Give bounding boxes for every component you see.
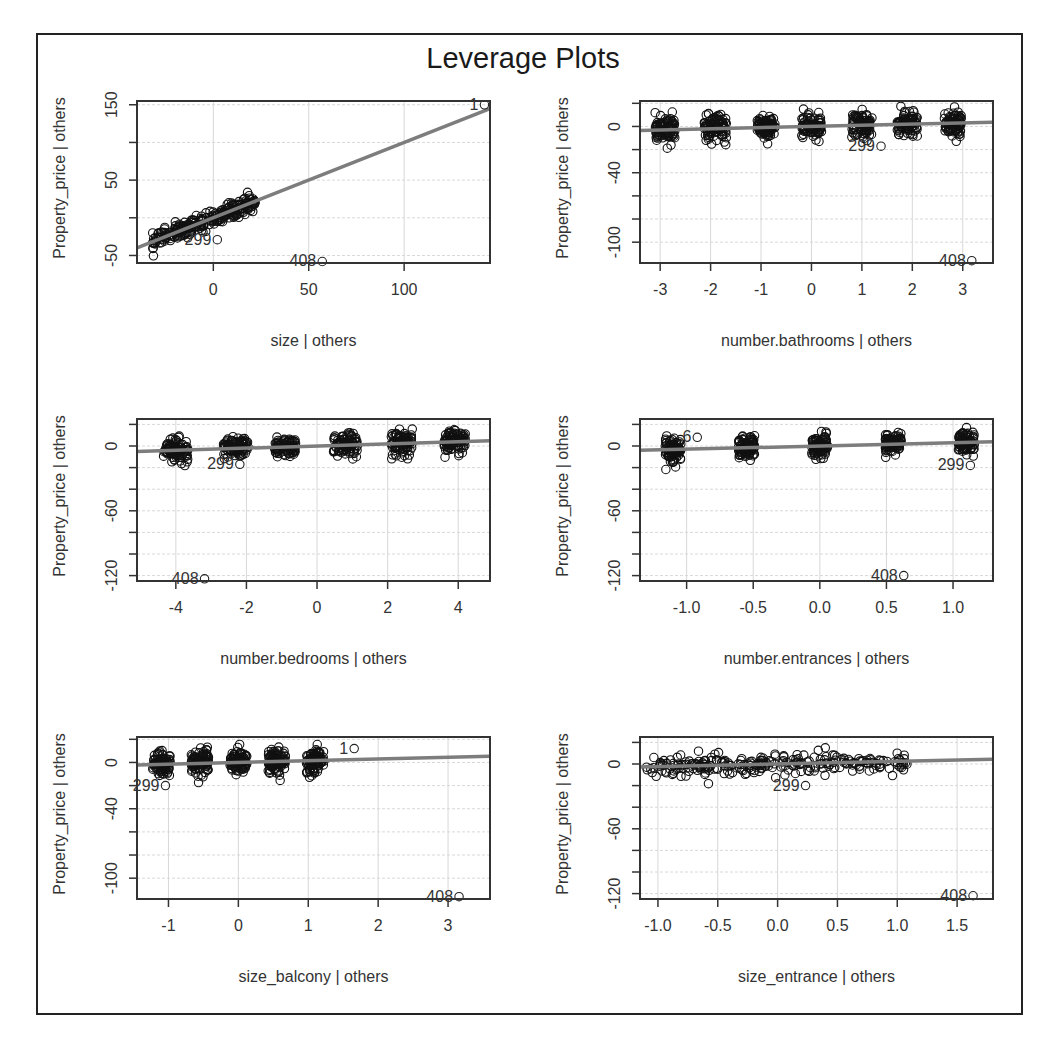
y-axis-label: Property_price | others	[554, 415, 572, 577]
svg-text:0.5: 0.5	[875, 599, 897, 616]
y-axis-label: Property_price | others	[51, 415, 69, 577]
svg-text:0.0: 0.0	[809, 599, 831, 616]
x-axis: -3-2-10123	[653, 263, 967, 298]
leverage-plot-size-entrance: 299408-1.0-0.50.00.51.01.50-60-120size_e…	[530, 716, 1025, 1026]
svg-text:299: 299	[848, 137, 875, 154]
x-axis-label: number.bathrooms | others	[721, 332, 912, 349]
svg-text:-120: -120	[103, 559, 120, 591]
x-axis: -10123	[161, 899, 452, 934]
x-axis-label: number.entrances | others	[724, 650, 910, 667]
svg-text:1: 1	[304, 917, 313, 934]
outlier-label-408: 408	[940, 887, 977, 904]
outlier-label-299: 299	[848, 137, 885, 154]
figure-title: Leverage Plots	[0, 42, 1046, 75]
svg-text:-1.0: -1.0	[673, 599, 701, 616]
svg-text:2: 2	[908, 281, 917, 298]
leverage-plot-number-entrances: 6299408-1.0-0.50.00.51.00-60-120number.e…	[530, 398, 1025, 708]
x-axis: -1.0-0.50.00.51.0	[673, 581, 964, 616]
scatter-points	[149, 188, 260, 260]
svg-text:-1.0: -1.0	[644, 917, 672, 934]
svg-text:1.0: 1.0	[886, 917, 908, 934]
svg-text:408: 408	[939, 252, 966, 269]
svg-text:-100: -100	[606, 226, 623, 258]
svg-text:0: 0	[103, 758, 120, 767]
y-axis: 0-60-120	[103, 424, 137, 591]
svg-text:299: 299	[207, 455, 234, 472]
svg-text:4: 4	[454, 599, 463, 616]
svg-text:408: 408	[290, 252, 317, 269]
outlier-label-6: 6	[682, 428, 701, 445]
svg-text:299: 299	[185, 231, 212, 248]
svg-text:-120: -120	[606, 877, 623, 909]
y-axis-label: Property_price | others	[554, 97, 572, 259]
y-axis: 0-60-120	[606, 424, 640, 591]
leverage-plot-size: 1299408050100-5050150size | othersProper…	[36, 80, 526, 390]
outlier-label-408: 408	[426, 888, 463, 905]
svg-text:408: 408	[940, 887, 967, 904]
svg-text:3: 3	[958, 281, 967, 298]
x-axis-label: size | others	[271, 332, 357, 349]
leverage-plot-size-balcony: 1299408-101230-40-100size_balcony | othe…	[36, 716, 526, 1026]
y-axis-label: Property_price | others	[554, 733, 572, 895]
outlier-label-408: 408	[939, 252, 976, 269]
svg-text:-40: -40	[103, 797, 120, 820]
svg-text:0.0: 0.0	[766, 917, 788, 934]
leverage-plot-number-bathrooms: 299408-3-2-101230-40-100number.bathrooms…	[530, 80, 1025, 390]
svg-text:-60: -60	[103, 499, 120, 522]
svg-text:-1: -1	[754, 281, 768, 298]
svg-text:-50: -50	[103, 244, 120, 267]
svg-text:0: 0	[234, 917, 243, 934]
svg-text:0: 0	[103, 441, 120, 450]
svg-text:0: 0	[807, 281, 816, 298]
svg-text:1.0: 1.0	[942, 599, 964, 616]
y-axis-label: Property_price | others	[51, 97, 69, 259]
svg-text:3: 3	[444, 917, 453, 934]
x-axis-label: size_entrance | others	[738, 968, 895, 986]
svg-text:0: 0	[606, 441, 623, 450]
svg-text:1.5: 1.5	[946, 917, 968, 934]
svg-text:-60: -60	[606, 499, 623, 522]
regression-line	[137, 109, 490, 248]
svg-text:2: 2	[374, 917, 383, 934]
x-axis: -4-2024	[169, 581, 463, 616]
svg-text:-3: -3	[653, 281, 667, 298]
svg-text:0: 0	[209, 281, 218, 298]
svg-text:-60: -60	[606, 817, 623, 840]
svg-text:0: 0	[606, 759, 623, 768]
outlier-label-299: 299	[773, 777, 810, 794]
y-axis-label: Property_price | others	[51, 733, 69, 895]
svg-text:100: 100	[391, 281, 418, 298]
svg-text:1: 1	[470, 96, 479, 113]
svg-text:0: 0	[313, 599, 322, 616]
svg-text:50: 50	[103, 171, 120, 189]
svg-text:150: 150	[103, 91, 120, 118]
svg-text:-120: -120	[606, 559, 623, 591]
svg-text:-4: -4	[169, 599, 183, 616]
svg-text:299: 299	[773, 777, 800, 794]
svg-text:6: 6	[682, 428, 691, 445]
outlier-label-408: 408	[172, 570, 209, 587]
svg-text:-100: -100	[103, 862, 120, 894]
svg-text:1: 1	[857, 281, 866, 298]
svg-text:1: 1	[339, 740, 348, 757]
x-axis-label: size_balcony | others	[238, 968, 388, 986]
y-axis: 0-60-120	[606, 742, 640, 909]
svg-text:299: 299	[938, 456, 965, 473]
y-axis: -5050150	[103, 91, 137, 267]
svg-text:-2: -2	[703, 281, 717, 298]
svg-text:-1: -1	[161, 917, 175, 934]
svg-text:-2: -2	[239, 599, 253, 616]
svg-text:0: 0	[606, 122, 623, 131]
svg-text:-0.5: -0.5	[704, 917, 732, 934]
svg-text:-40: -40	[606, 161, 623, 184]
svg-text:-0.5: -0.5	[739, 599, 767, 616]
outlier-label-299: 299	[938, 456, 975, 473]
svg-text:50: 50	[300, 281, 318, 298]
y-axis: 0-40-100	[606, 103, 640, 258]
outlier-label-299: 299	[185, 231, 222, 248]
y-axis: 0-40-100	[103, 739, 137, 894]
x-axis-label: number.bedrooms | others	[220, 650, 406, 667]
outlier-label-1: 1	[339, 740, 358, 757]
leverage-plot-number-bedrooms: 299408-4-20240-60-120number.bedrooms | o…	[36, 398, 526, 708]
x-axis: -1.0-0.50.00.51.01.5	[644, 899, 968, 934]
